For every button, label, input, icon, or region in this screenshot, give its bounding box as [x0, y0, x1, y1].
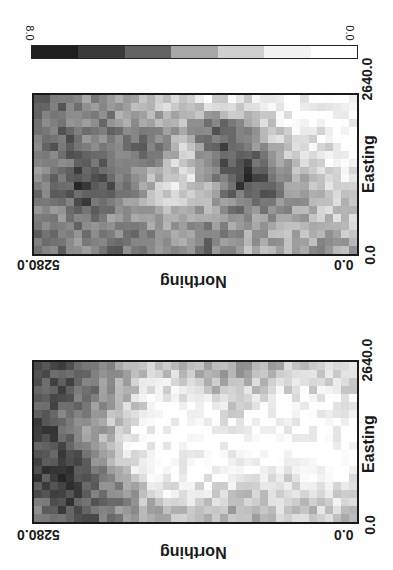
top-northing-min-label: 0.0 — [334, 257, 353, 273]
colorbar-min-label: 0.0 — [344, 25, 356, 40]
colorbar-segment — [125, 46, 171, 58]
top-northing-title: Northing — [160, 272, 227, 290]
top-easting-min-label: 0.0 — [362, 245, 378, 264]
top-heatmap — [32, 93, 359, 256]
colorbar-segment — [311, 46, 357, 58]
colorbar-max-label: 8.0 — [24, 25, 36, 40]
top-easting-title: Easting — [360, 135, 378, 193]
colorbar-segment — [218, 46, 264, 58]
bottom-northing-min-label: 0.0 — [334, 527, 353, 543]
colorbar-segment — [171, 46, 217, 58]
top-easting-max-label: 2640.0 — [359, 58, 375, 101]
bottom-northing-max-label: 5280.0 — [17, 527, 60, 543]
colorbar-segment — [78, 46, 124, 58]
bottom-heatmap — [32, 360, 359, 524]
bottom-heatmap-grid — [34, 362, 357, 522]
colorbar-segment — [32, 46, 78, 58]
colorbar — [31, 45, 358, 59]
bottom-easting-min-label: 0.0 — [362, 515, 378, 534]
top-northing-max-label: 5280.0 — [17, 257, 60, 273]
bottom-northing-title: Northing — [160, 543, 227, 561]
bottom-easting-max-label: 2640.0 — [359, 339, 375, 382]
bottom-easting-title: Easting — [360, 415, 378, 473]
colorbar-segment — [264, 46, 310, 58]
top-heatmap-grid — [34, 95, 357, 254]
